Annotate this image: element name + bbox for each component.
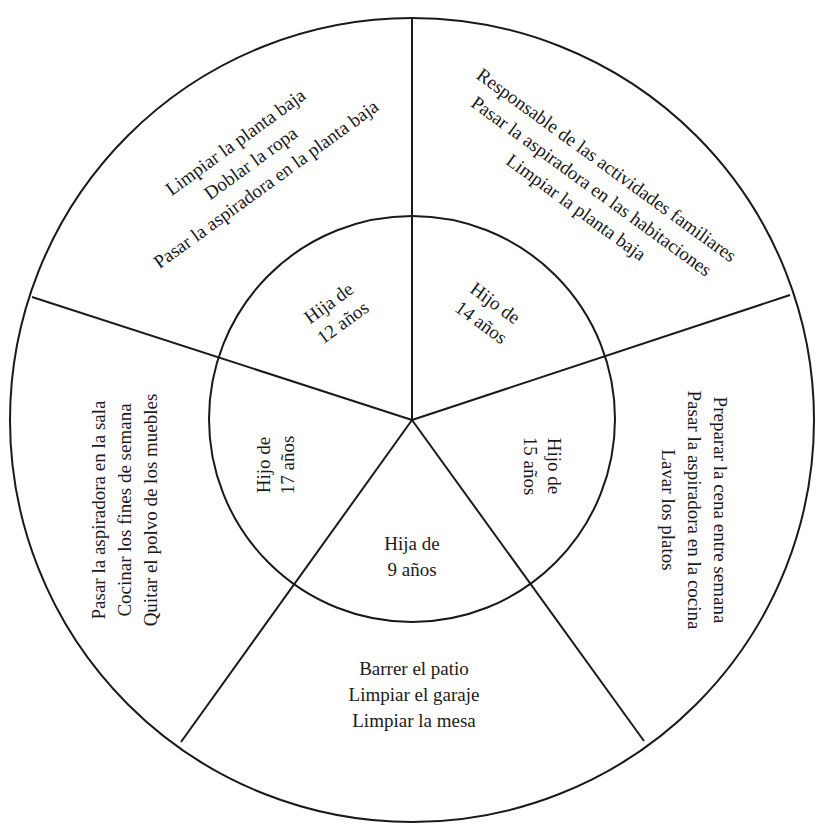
tasks-hijo-17: Pasar la aspiradora en la sala Cocinar l…	[88, 394, 161, 627]
child-name: Hijo de	[253, 437, 274, 493]
child-label-hijo-17: Hijo de 17 años	[253, 436, 298, 495]
chore-wheel-diagram: Limpiar la planta baja Doblar la ropa Pa…	[0, 0, 818, 825]
child-label-hija-9: Hija de 9 años	[384, 533, 439, 580]
task-item: Barrer el patio	[359, 658, 469, 679]
task-item: Limpiar la mesa	[352, 710, 476, 731]
segment-hijo-17: Pasar la aspiradora en la sala Cocinar l…	[88, 394, 298, 627]
child-label-hija-12: Hija de 12 años	[299, 277, 373, 348]
task-item: Cocinar los fines de semana	[114, 403, 135, 617]
task-item: Limpiar el garaje	[349, 684, 480, 705]
tasks-hija-9: Barrer el patio Limpiar el garaje Limpia…	[349, 658, 480, 731]
task-item: Preparar la cena entre semana	[710, 397, 731, 624]
task-item: Pasar la aspiradora en la cocina	[684, 391, 705, 631]
child-name: Hijo de	[544, 438, 565, 494]
child-label-hijo-15: Hijo de 15 años	[520, 437, 565, 496]
tasks-hijo-14: Responsable de las actividades familiare…	[442, 64, 740, 309]
child-age: 17 años	[277, 436, 298, 495]
child-name: Hija de	[384, 533, 439, 554]
segment-hija-9: Barrer el patio Limpiar el garaje Limpia…	[349, 533, 480, 731]
task-item: Lavar los platos	[658, 449, 679, 570]
segment-hija-12: Limpiar la planta baja Doblar la ropa Pa…	[119, 53, 383, 348]
child-age: 15 años	[520, 437, 541, 496]
segment-hijo-14: Responsable de las actividades familiare…	[442, 64, 740, 348]
task-item: Pasar la aspiradora en la sala	[88, 400, 109, 619]
tasks-hija-12: Limpiar la planta baja Doblar la ropa Pa…	[119, 53, 383, 272]
segment-hijo-15: Preparar la cena entre semana Pasar la a…	[520, 391, 731, 631]
child-label-hijo-14: Hijo de 14 años	[451, 277, 525, 348]
task-item: Quitar el polvo de los muebles	[140, 394, 161, 627]
tasks-hijo-15: Preparar la cena entre semana Pasar la a…	[658, 391, 731, 631]
child-age: 9 años	[387, 559, 436, 580]
